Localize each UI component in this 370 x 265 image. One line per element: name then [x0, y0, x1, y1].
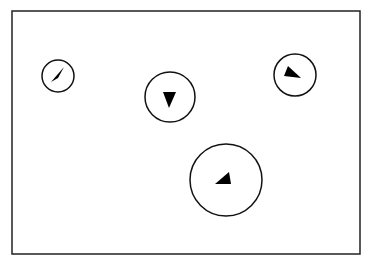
- compass-marker-4: [190, 144, 262, 216]
- marker-group: [42, 54, 316, 216]
- diagram-frame: [12, 11, 360, 254]
- arrow-east-south-east-icon: [284, 66, 301, 78]
- diagram-canvas: [0, 0, 370, 265]
- diagram-svg: [0, 0, 370, 265]
- arrow-south-icon: [163, 92, 176, 108]
- arrow-north-east-icon: [215, 172, 231, 184]
- compass-marker-3: [274, 54, 316, 96]
- compass-marker-1: [42, 60, 74, 92]
- arrow-north-east-icon: [51, 67, 64, 82]
- compass-marker-2: [145, 72, 195, 122]
